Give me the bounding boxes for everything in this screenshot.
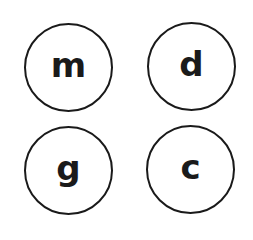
key-d[interactable]: d [147,22,236,111]
key-m[interactable]: m [24,23,113,112]
key-g[interactable]: g [24,126,113,215]
key-label: m [51,48,86,82]
key-c[interactable]: c [146,125,235,214]
key-label: g [56,151,80,185]
key-label: d [179,47,203,81]
key-label: c [180,150,200,184]
